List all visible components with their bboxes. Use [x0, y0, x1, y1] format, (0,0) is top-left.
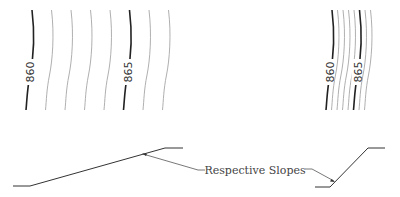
respective-slopes-label: Respective Slopes — [204, 164, 306, 177]
left-contour-line-2 — [65, 10, 72, 110]
left-contour-label-860: 860 — [24, 62, 37, 83]
contour-slope-diagram: 860865 860865 Respective Slopes — [0, 0, 400, 197]
left-contour-line-3 — [85, 10, 92, 110]
gentle-slope-profile — [13, 148, 183, 186]
left-contour-line-1 — [46, 10, 53, 110]
left-contour-label-865: 865 — [122, 62, 135, 83]
steep-slope-profile — [315, 148, 385, 187]
left-contour-line-7 — [163, 10, 170, 110]
left-contour-lines: 860865 — [24, 10, 170, 110]
left-contour-line-4 — [104, 10, 111, 110]
leader-line-steep — [305, 169, 334, 181]
right-contour-lines: 860865 — [324, 10, 372, 110]
leader-line-gentle — [143, 154, 205, 170]
left-contour-line-6 — [143, 10, 150, 110]
